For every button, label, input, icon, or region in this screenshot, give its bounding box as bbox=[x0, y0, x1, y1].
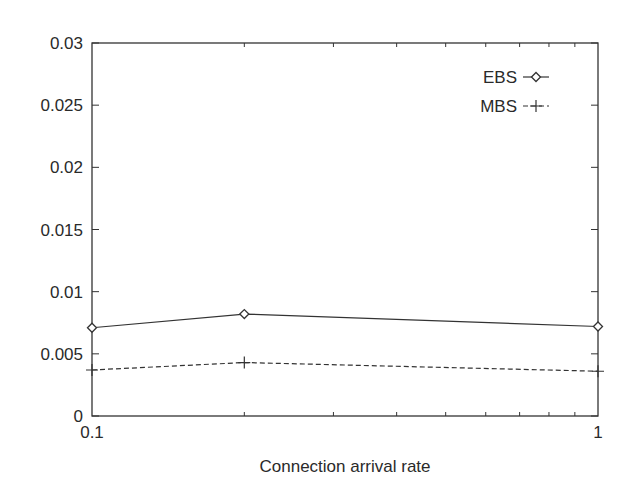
x-axis-ticks: 0.11 bbox=[80, 43, 603, 442]
plus-marker bbox=[86, 364, 98, 376]
y-tick-label: 0.03 bbox=[50, 34, 83, 53]
series-mbs bbox=[86, 357, 604, 378]
x-axis-title: Connection arrival rate bbox=[259, 457, 430, 476]
y-tick-label: 0.02 bbox=[50, 158, 83, 177]
series-line bbox=[92, 363, 598, 372]
plot-border bbox=[92, 43, 598, 416]
diamond-marker bbox=[594, 322, 603, 331]
series-ebs bbox=[88, 310, 603, 333]
y-tick-label: 0.015 bbox=[40, 221, 83, 240]
series-line bbox=[92, 314, 598, 328]
legend: EBSMBS bbox=[480, 68, 549, 116]
x-tick-label: 1 bbox=[593, 423, 602, 442]
plus-marker bbox=[592, 365, 604, 377]
series-layer bbox=[86, 310, 604, 378]
diamond-marker bbox=[532, 73, 541, 82]
x-tick-label: 0.1 bbox=[80, 423, 104, 442]
y-axis-ticks: 00.0050.010.0150.020.0250.03 bbox=[40, 34, 598, 426]
diamond-marker bbox=[240, 310, 249, 319]
legend-label-mbs: MBS bbox=[480, 97, 517, 116]
line-chart: 00.0050.010.0150.020.0250.03 0.11 EBSMBS… bbox=[0, 0, 628, 500]
plot-frame bbox=[92, 43, 598, 416]
y-tick-label: 0.025 bbox=[40, 96, 83, 115]
y-tick-label: 0.005 bbox=[40, 345, 83, 364]
plus-marker bbox=[530, 100, 542, 112]
diamond-marker bbox=[88, 323, 97, 332]
legend-label-ebs: EBS bbox=[483, 68, 517, 87]
y-tick-label: 0.01 bbox=[50, 283, 83, 302]
plus-marker bbox=[238, 357, 250, 369]
